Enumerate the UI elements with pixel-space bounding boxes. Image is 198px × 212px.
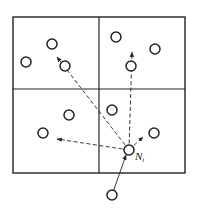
node-label-ni: Ni <box>134 150 144 164</box>
node-circle <box>47 39 57 49</box>
node-circle <box>60 61 70 71</box>
node-circle <box>21 57 31 67</box>
dashed-arrow <box>57 139 129 150</box>
node-circle <box>149 128 159 138</box>
node-ni-circle <box>124 145 134 155</box>
node-circle <box>64 110 74 120</box>
solid-arrow <box>112 155 126 195</box>
node-circle <box>107 105 117 115</box>
node-circle <box>150 44 160 54</box>
node-circle <box>38 128 48 138</box>
quadtree-diagram: Ni <box>0 0 198 212</box>
node-circle <box>126 61 136 71</box>
node-circle <box>107 190 117 200</box>
nodes-group <box>21 32 160 200</box>
node-circle <box>111 32 121 42</box>
quadtree-grid <box>13 17 185 173</box>
